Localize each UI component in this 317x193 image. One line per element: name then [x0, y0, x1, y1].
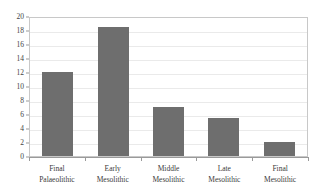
x-axis-label-line: Mesolithic — [85, 174, 141, 185]
bar-slot — [141, 18, 196, 156]
x-axis-label-line: Mesolithic — [196, 174, 252, 185]
y-tick-label: 14 — [17, 55, 25, 63]
y-tick-label: 0 — [20, 153, 24, 161]
x-tick-mark — [141, 157, 142, 161]
x-axis-label-line: Late — [196, 163, 252, 174]
x-axis-label: FinalMesolithic — [252, 163, 308, 193]
bar-slot — [30, 18, 85, 156]
x-axis-label-line: Middle — [141, 163, 197, 174]
x-axis-label: LateMesolithic — [196, 163, 252, 193]
y-tick-label: 6 — [20, 111, 24, 119]
x-tick-mark — [252, 157, 253, 161]
x-axis-label-line: Mesolithic — [252, 174, 308, 185]
bar — [98, 27, 129, 157]
x-axis-labels: FinalPalaeolithicEarlyMesolithicMiddleMe… — [29, 163, 308, 193]
x-tick-mark — [196, 157, 197, 161]
bar — [153, 107, 184, 156]
x-tick-mark — [308, 157, 309, 161]
bar — [208, 118, 239, 157]
y-tick-label: 8 — [20, 97, 24, 105]
plot-area — [29, 17, 308, 157]
x-axis-label-line: Final — [252, 163, 308, 174]
x-axis-line — [29, 157, 308, 158]
bar — [42, 72, 73, 156]
bar-slot — [252, 18, 307, 156]
y-tick-label: 18 — [17, 27, 25, 35]
x-axis-label-line: Final — [29, 163, 85, 174]
y-tick-label: 20 — [17, 13, 25, 21]
bar-chart: 20181614121086420 FinalPalaeolithicEarly… — [0, 0, 317, 193]
x-axis-label: FinalPalaeolithic — [29, 163, 85, 193]
y-tick-label: 12 — [17, 69, 25, 77]
x-tick-mark — [85, 157, 86, 161]
y-tick-label: 2 — [20, 139, 24, 147]
bar-slot — [196, 18, 251, 156]
y-tick-label: 10 — [17, 83, 25, 91]
x-axis-label: MiddleMesolithic — [141, 163, 197, 193]
x-axis-label-line: Palaeolithic — [29, 174, 85, 185]
y-tick-label: 16 — [17, 41, 25, 49]
bar — [264, 142, 295, 156]
bar-slot — [85, 18, 140, 156]
x-axis-label: EarlyMesolithic — [85, 163, 141, 193]
x-axis-label-line: Mesolithic — [141, 174, 197, 185]
y-tick-label: 4 — [20, 125, 24, 133]
x-axis-label-line: Early — [85, 163, 141, 174]
bar-series — [30, 18, 307, 156]
y-axis: 20181614121086420 — [0, 17, 29, 157]
x-tick-mark — [29, 157, 30, 161]
